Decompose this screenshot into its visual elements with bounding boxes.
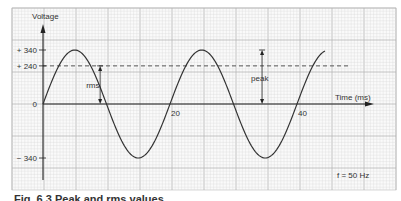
y-axis-label: Voltage bbox=[32, 12, 59, 21]
voltage-chart: + 340+ 2400− 340 2040 rmspeakf = 50 Hz V… bbox=[0, 0, 401, 201]
y-tick-label: − 340 bbox=[17, 154, 38, 163]
rms-label: rms bbox=[86, 81, 99, 90]
x-axis-label: Time (ms) bbox=[335, 93, 371, 102]
y-tick-label: + 240 bbox=[17, 62, 38, 71]
x-tick-label: 40 bbox=[298, 109, 307, 118]
y-tick-label: + 340 bbox=[17, 46, 38, 55]
peak-label: peak bbox=[251, 74, 269, 83]
x-tick-label: 20 bbox=[171, 109, 180, 118]
y-tick-label: 0 bbox=[33, 100, 38, 109]
frequency-label: f = 50 Hz bbox=[337, 171, 369, 180]
figure-caption: Fig. 6.3 Peak and rms values bbox=[14, 193, 164, 201]
